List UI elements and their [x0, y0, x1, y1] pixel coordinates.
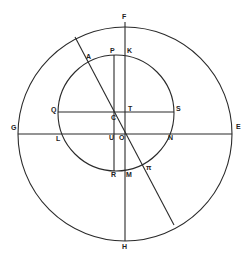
labels-group: FAPKQCTSGELUONRMπH — [11, 13, 241, 250]
inner-circle — [58, 55, 174, 171]
point-label-f: F — [122, 13, 127, 20]
point-label-m: M — [126, 171, 132, 178]
point-label-r: R — [111, 171, 116, 178]
point-label-l: L — [56, 135, 61, 142]
point-label-a: A — [86, 53, 91, 60]
point-label-q: Q — [51, 106, 57, 114]
point-label-e: E — [236, 123, 241, 130]
point-label-u: U — [109, 134, 114, 141]
point-label-g: G — [11, 124, 17, 131]
lines-group — [18, 22, 232, 241]
point-label-pi: π — [146, 164, 152, 171]
point-label-n: N — [168, 134, 173, 141]
point-label-k: K — [127, 47, 132, 54]
point-label-s: S — [176, 105, 181, 112]
point-label-o: O — [119, 134, 125, 141]
geometry-diagram: FAPKQCTSGELUONRMπH — [0, 0, 252, 260]
point-label-p: P — [110, 47, 115, 54]
point-label-h: H — [122, 243, 127, 250]
point-label-c: C — [111, 114, 116, 121]
point-label-t: T — [128, 105, 133, 112]
